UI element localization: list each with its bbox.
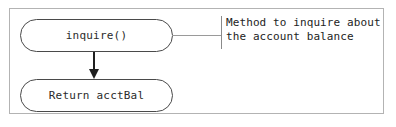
annotation-note-line-2: the account balance [226, 30, 381, 44]
annotation-note[interactable]: Method to inquire about the account bala… [221, 16, 381, 49]
activity-node-return-acctbal[interactable]: Return acctBal [20, 79, 173, 112]
activity-node-return-acctbal-label: Return acctBal [49, 89, 145, 102]
diagram-canvas: inquire() Return acctBal Method to inqui… [0, 0, 396, 127]
activity-node-inquire[interactable]: inquire() [20, 19, 173, 52]
activity-node-inquire-label: inquire() [66, 29, 127, 42]
note-connector-line [172, 35, 223, 36]
annotation-note-line-1: Method to inquire about [226, 16, 381, 30]
flow-arrow-icon [86, 50, 102, 80]
